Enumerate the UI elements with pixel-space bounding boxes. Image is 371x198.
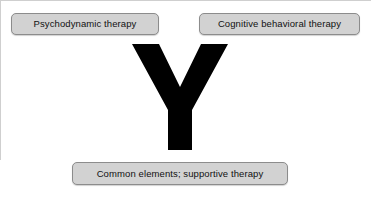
- figure-canvas: Psychodynamic therapy Cognitive behavior…: [0, 0, 371, 198]
- canvas-top-border: [0, 0, 371, 1]
- canvas-left-border: [0, 0, 1, 160]
- node-cognitive-behavioral-therapy[interactable]: Cognitive behavioral therapy: [199, 13, 360, 35]
- node-label: Psychodynamic therapy: [34, 19, 137, 29]
- node-psychodynamic-therapy[interactable]: Psychodynamic therapy: [11, 13, 159, 35]
- node-label: Common elements; supportive therapy: [97, 169, 264, 179]
- y-branch-connector: [128, 40, 232, 154]
- node-common-elements-supportive-therapy[interactable]: Common elements; supportive therapy: [72, 162, 288, 185]
- node-label: Cognitive behavioral therapy: [218, 19, 341, 29]
